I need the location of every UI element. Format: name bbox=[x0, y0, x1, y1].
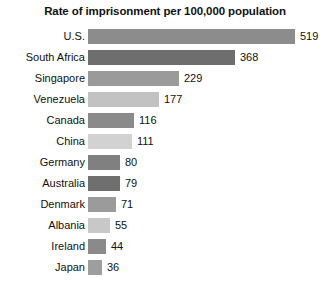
category-label: Canada bbox=[46, 113, 85, 128]
value-label: 519 bbox=[300, 29, 318, 44]
bar-row: South Africa368 bbox=[0, 50, 330, 65]
bar bbox=[88, 71, 179, 86]
category-label: South Africa bbox=[26, 50, 85, 65]
bar-row: Albania55 bbox=[0, 218, 330, 233]
value-label: 111 bbox=[137, 134, 154, 149]
bar bbox=[88, 239, 106, 254]
category-label: Australia bbox=[42, 176, 85, 191]
value-label: 36 bbox=[107, 260, 119, 275]
bar-row: Germany80 bbox=[0, 155, 330, 170]
category-label: Germany bbox=[40, 155, 85, 170]
bar-row: Japan36 bbox=[0, 260, 330, 275]
category-label: Singapore bbox=[35, 71, 85, 86]
bar-row: Canada116 bbox=[0, 113, 330, 128]
category-label: Albania bbox=[48, 218, 85, 233]
bar bbox=[88, 260, 102, 275]
bar bbox=[88, 218, 110, 233]
bar-row: Ireland44 bbox=[0, 239, 330, 254]
bar-row: Singapore229 bbox=[0, 71, 330, 86]
category-label: Venezuela bbox=[34, 92, 85, 107]
bar bbox=[88, 92, 159, 107]
category-label: Japan bbox=[55, 260, 85, 275]
plot-area: U.S.519South Africa368Singapore229Venezu… bbox=[0, 29, 330, 281]
category-label: China bbox=[56, 134, 85, 149]
value-label: 44 bbox=[111, 239, 123, 254]
value-label: 116 bbox=[139, 113, 157, 128]
category-label: Ireland bbox=[51, 239, 85, 254]
value-label: 177 bbox=[164, 92, 182, 107]
value-label: 80 bbox=[125, 155, 137, 170]
bar-row: China111 bbox=[0, 134, 330, 149]
bar-chart: Rate of imprisonment per 100,000 populat… bbox=[0, 0, 330, 286]
category-label: Denmark bbox=[40, 197, 85, 212]
bar bbox=[88, 197, 116, 212]
bar bbox=[88, 29, 295, 44]
bar bbox=[88, 155, 120, 170]
category-label: U.S. bbox=[64, 29, 85, 44]
value-label: 229 bbox=[184, 71, 202, 86]
bar-row: Denmark71 bbox=[0, 197, 330, 212]
value-label: 368 bbox=[240, 50, 258, 65]
bar-row: Venezuela177 bbox=[0, 92, 330, 107]
chart-title: Rate of imprisonment per 100,000 populat… bbox=[0, 5, 330, 17]
value-label: 79 bbox=[125, 176, 137, 191]
bar bbox=[88, 113, 134, 128]
bar bbox=[88, 134, 132, 149]
bar bbox=[88, 50, 235, 65]
bar-row: U.S.519 bbox=[0, 29, 330, 44]
value-label: 71 bbox=[121, 197, 133, 212]
bar-row: Australia79 bbox=[0, 176, 330, 191]
value-label: 55 bbox=[115, 218, 127, 233]
bar bbox=[88, 176, 120, 191]
